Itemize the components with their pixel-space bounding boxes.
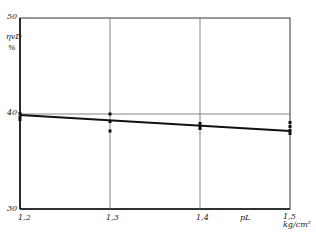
data-line [20, 115, 290, 131]
y-tick-50: 50 [7, 13, 17, 21]
x-tick-1-5: 1,5 kg/cm² [283, 213, 316, 229]
y-tick-40: 40 [7, 109, 17, 117]
plot-frame [20, 18, 290, 209]
y-axis-label: ηvD [6, 33, 22, 41]
x-tick-1-3: 1,3 [106, 214, 119, 222]
y-tick-30: 30 [7, 205, 17, 213]
x-axis-label: pL [240, 214, 250, 222]
x-tick-1-2: 1,2 [18, 214, 31, 222]
chart-canvas [0, 0, 316, 235]
y-axis-unit: % [8, 44, 16, 52]
x-tick-1-4: 1,4 [196, 214, 209, 222]
